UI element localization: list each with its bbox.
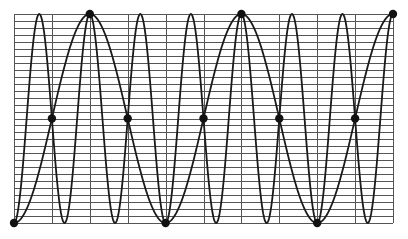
data-point-marker [313,219,321,227]
data-point-marker [275,114,283,122]
data-point-marker [86,10,94,18]
data-point-marker [351,114,359,122]
data-point-marker [199,114,207,122]
data-point-marker [389,10,397,18]
data-point-marker [161,219,169,227]
data-point-marker [10,219,18,227]
data-point-marker [48,114,56,122]
data-point-marker [124,114,132,122]
wave-chart [0,0,408,239]
data-point-marker [237,10,245,18]
